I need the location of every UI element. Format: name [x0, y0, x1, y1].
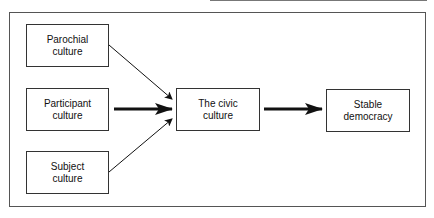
edge-subject-civic [109, 119, 172, 172]
edge-parochial-civic [109, 45, 172, 99]
node-label: Stable democracy [344, 99, 393, 123]
node-label: Participant culture [44, 98, 91, 122]
node-label: Parochial culture [47, 34, 89, 58]
node-label: The civic culture [198, 98, 237, 122]
node-civic-culture: The civic culture [176, 88, 260, 131]
node-stable-democracy: Stable democracy [326, 89, 410, 132]
node-label: Subject culture [51, 161, 84, 185]
node-participant-culture: Participant culture [26, 88, 109, 131]
node-subject-culture: Subject culture [26, 151, 109, 194]
node-parochial-culture: Parochial culture [26, 24, 109, 67]
